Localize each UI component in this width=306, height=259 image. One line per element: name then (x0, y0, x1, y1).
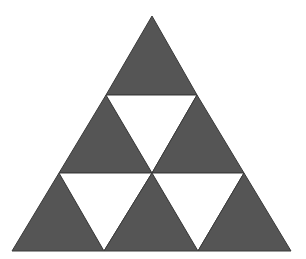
triangle-diagram-svg (0, 0, 306, 259)
triangle-figure (0, 0, 306, 259)
